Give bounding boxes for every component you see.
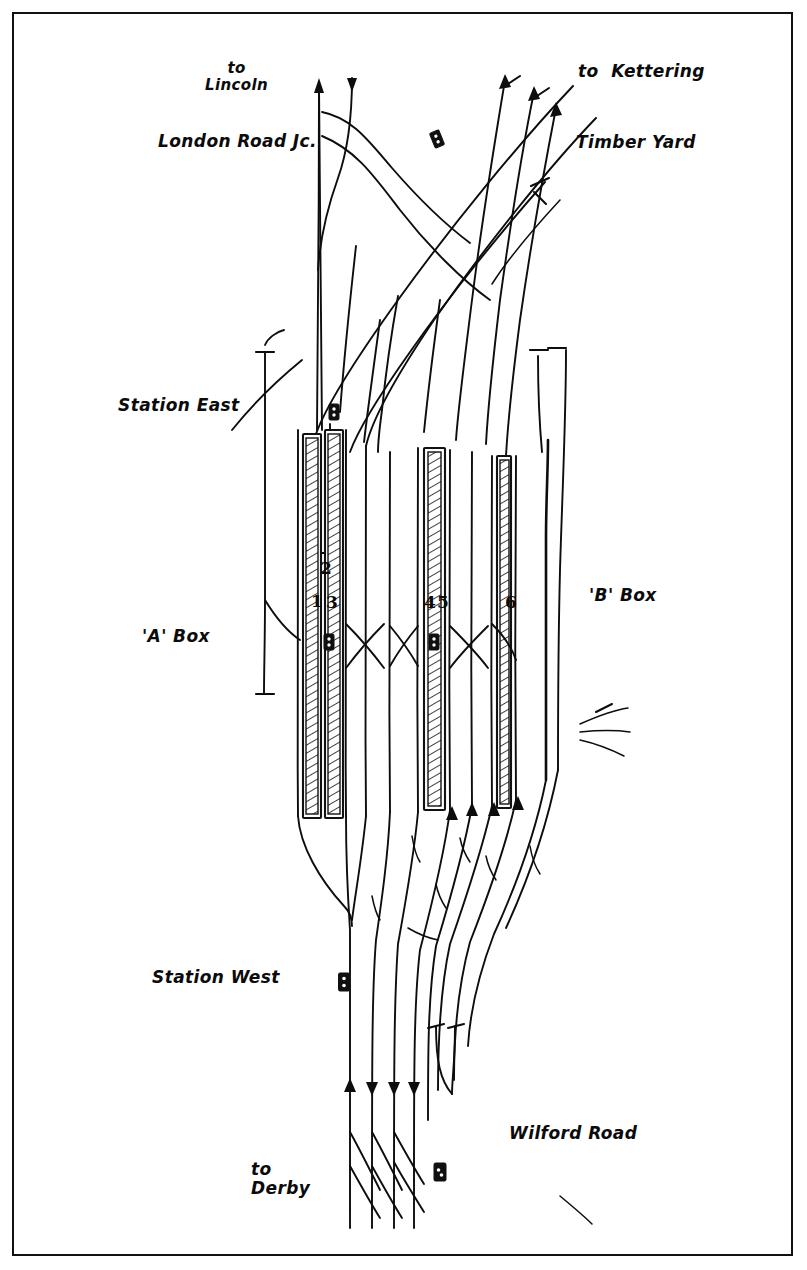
label-to-kettering: to Kettering	[578, 62, 705, 81]
label-to-lincoln: to Lincoln	[205, 60, 268, 94]
left-siding	[232, 330, 302, 694]
label-station-west: Station West	[152, 968, 280, 987]
label-timber-yard: Timber Yard	[576, 133, 696, 152]
signal-marker-station-west	[339, 973, 350, 991]
bottom-crossovers	[350, 1024, 464, 1228]
label-station-east: Station East	[118, 396, 240, 415]
signal-marker-station-east	[329, 404, 339, 420]
platform-6: 6	[505, 592, 517, 612]
platform-2: 2	[320, 558, 332, 578]
south-throat-tracks	[298, 770, 558, 1210]
label-london-road-jc: London Road Jc.	[158, 132, 317, 151]
label-wilford-road: Wilford Road	[509, 1124, 637, 1143]
platform-3: 3	[326, 592, 338, 612]
diagram-page: .tk { fill:none; stroke:#0d0d0d; stroke-…	[0, 0, 807, 1270]
platform-5: 5	[437, 592, 449, 612]
label-a-box: 'A' Box	[142, 627, 210, 646]
north-throat-tracks	[316, 78, 596, 456]
signal-marker-wilford-road	[434, 1163, 446, 1181]
label-to-derby: to Derby	[251, 1160, 310, 1198]
signal-marker-a-box	[324, 634, 334, 650]
signal-marker-kettering-throat	[429, 130, 444, 149]
direction-arrows-bottom	[344, 1078, 420, 1096]
signal-marker-b-box	[429, 634, 439, 650]
platform-4: 4	[424, 592, 436, 612]
buffer-stops	[548, 348, 630, 1224]
platforms	[303, 430, 511, 818]
platform-1: 1	[311, 591, 323, 611]
track-diagram-svg: .tk { fill:none; stroke:#0d0d0d; stroke-…	[0, 0, 807, 1270]
label-b-box: 'B' Box	[589, 586, 657, 605]
